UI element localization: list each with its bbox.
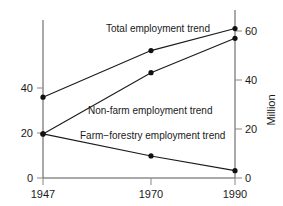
- x-axis-tick-label-1990: 1990: [223, 188, 247, 200]
- left-axis-tick-label-40: 40: [21, 82, 33, 94]
- left-axis-tick-label-0: 0: [27, 172, 33, 184]
- series-total-employment-trend: [40, 26, 237, 100]
- right-axis-tick-label-60: 60: [245, 25, 257, 37]
- series-label-farm-forestry: Farm−forestry employment trend: [80, 130, 225, 141]
- series-line-non-farm-employment-trend: [43, 38, 235, 134]
- right-axis: 60 40 20 0 Million: [235, 10, 277, 184]
- series-layer: [40, 26, 237, 173]
- left-axis-tick-label-20: 20: [21, 127, 33, 139]
- right-axis-tick-label-0: 0: [245, 172, 251, 184]
- data-point-non-farm-employment-trend-1990: [232, 36, 237, 41]
- bottom-axis: 1947 1970 1990: [31, 178, 247, 200]
- data-point-farm-forestry-employment-trend-1990: [232, 168, 237, 173]
- series-label-total: Total employment trend: [106, 23, 210, 34]
- data-point-farm-forestry-employment-trend-1970: [148, 153, 153, 158]
- data-point-total-employment-trend-1947: [40, 95, 45, 100]
- employment-trend-chart: 40 20 0 60 40 20 0 Million 1947 1970 199…: [0, 0, 283, 206]
- series-line-total-employment-trend: [43, 29, 235, 98]
- right-axis-title: Million: [265, 94, 277, 125]
- right-axis-tick-label-20: 20: [245, 123, 257, 135]
- right-axis-tick-label-40: 40: [245, 74, 257, 86]
- data-point-total-employment-trend-1990: [232, 26, 237, 31]
- left-axis: 40 20 0: [21, 20, 43, 184]
- series-non-farm-employment-trend: [40, 36, 237, 137]
- series-label-non-farm: Non-farm employment trend: [88, 105, 213, 116]
- data-point-farm-forestry-employment-trend-1947: [40, 131, 45, 136]
- data-point-total-employment-trend-1970: [148, 48, 153, 53]
- data-point-non-farm-employment-trend-1970: [148, 70, 153, 75]
- series-annotations: Total employment trend Non-farm employme…: [80, 23, 225, 141]
- x-axis-tick-label-1947: 1947: [31, 188, 55, 200]
- chart-canvas: 40 20 0 60 40 20 0 Million 1947 1970 199…: [0, 0, 283, 206]
- x-axis-tick-label-1970: 1970: [139, 188, 163, 200]
